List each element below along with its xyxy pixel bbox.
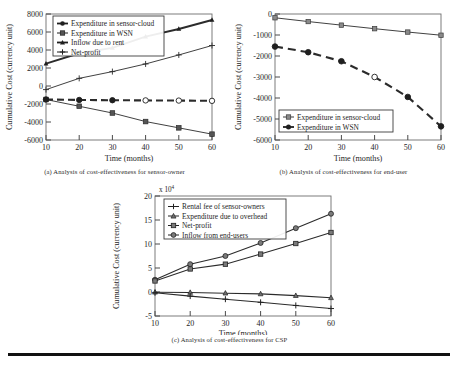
panel-a-x-axis: 10 20 30 40 50 60 (42, 135, 216, 152)
panel-a-y-axis: 8000 6000 4000 2000 0 -2000 -4000 -6000 (24, 10, 51, 145)
panel-a-xtick-20: 20 (75, 143, 83, 152)
panel-b-ytick-neg6000: -6000 (253, 136, 272, 145)
panel-c-y-axis: 20 15 10 5 0 -5 (144, 192, 160, 321)
panel-c-ytick-20: 20 (144, 192, 152, 201)
panel-a-legend-label-1: Expenditure in WSN (71, 29, 134, 38)
cost-effectiveness-figure: 8000 6000 4000 2000 0 -2000 -4000 -6000 … (0, 0, 458, 366)
panel-c-xtick-40: 40 (257, 319, 265, 328)
panel-b-legend: Expenditure in sensor-cloud Expenditure … (279, 110, 393, 132)
panel-a-caption: (a) Analysis of cost-effectiveness for s… (0, 168, 229, 175)
panel-c-legend-item-1: Expenditure due to overhead (168, 212, 267, 221)
panel-a-ytick-2000: 2000 (27, 64, 43, 73)
panel-c-legend-label-0: Rental fee of sensor-owners (182, 202, 265, 211)
panel-c-legend-label-1: Expenditure due to overhead (182, 212, 267, 221)
panel-a-legend-label-2: Inflow due to rent (71, 38, 125, 47)
panel-c-y-exponent: x 104 (159, 184, 175, 194)
panel-a-legend-item-0: Expenditure in sensor-cloud (57, 19, 154, 28)
panel-b-xtick-20: 20 (304, 143, 312, 152)
panel-b-ytick-neg1000: -1000 (253, 31, 272, 40)
panel-c-series-rental-fee-of-sensor-owners (152, 290, 334, 312)
panel-b: 0 -1000 -2000 -3000 -4000 -5000 -6000 10… (229, 0, 458, 183)
panel-a-ytick-neg2000: -2000 (24, 100, 43, 109)
panel-a-legend: Expenditure in sensor-cloud Expenditure … (53, 16, 164, 57)
panel-a-xlabel: Time (months) (105, 154, 154, 163)
panel-c-ytick-15: 15 (144, 216, 152, 225)
panel-b-x-axis: 10 20 30 40 50 60 (271, 135, 445, 152)
panel-c-legend-item-0: Rental fee of sensor-owners (168, 202, 265, 211)
panel-c-legend: Rental fee of sensor-owners Expenditure … (164, 199, 286, 240)
panel-a-xtick-60: 60 (208, 143, 216, 152)
panel-b-series-expenditure-in-sensor-cloud (273, 16, 443, 38)
panel-c-xtick-10: 10 (151, 319, 159, 328)
panel-c-xlabel: Time (months) (219, 329, 268, 335)
panel-b-plot: 0 -1000 -2000 -3000 -4000 -5000 -6000 10… (229, 0, 458, 166)
panel-c-ytick-10: 10 (144, 240, 152, 249)
panel-b-ylabel: Cumulative Cost (currency unit) (234, 24, 243, 130)
panel-b-legend-item-0: Expenditure in sensor-cloud (283, 113, 380, 122)
panel-c: x 104 20 15 10 5 0 -5 (107, 180, 352, 350)
panel-b-ytick-neg2000: -2000 (253, 52, 272, 61)
panel-a-plot: 8000 6000 4000 2000 0 -2000 -4000 -6000 … (0, 0, 229, 166)
panel-c-xtick-30: 30 (221, 319, 229, 328)
panel-b-y-axis: 0 -1000 -2000 -3000 -4000 -5000 -6000 (253, 10, 280, 145)
panel-b-ytick-0: 0 (268, 10, 272, 19)
panel-b-xtick-40: 40 (371, 143, 379, 152)
panel-a-xtick-50: 50 (175, 143, 183, 152)
panel-b-xtick-10: 10 (271, 143, 279, 152)
panel-a-legend-label-0: Expenditure in sensor-cloud (71, 19, 154, 28)
panel-c-ylabel: Cumulative Cost (currency unit) (112, 203, 121, 309)
panel-c-plot: x 104 20 15 10 5 0 -5 (107, 180, 352, 335)
panel-a-series-expenditure-in-wsn (44, 97, 215, 136)
panel-b-legend-label-0: Expenditure in sensor-cloud (297, 113, 380, 122)
panel-b-ytick-neg3000: -3000 (253, 73, 272, 82)
panel-a-series-expenditure-in-sensor-cloud (43, 97, 214, 104)
panel-b-xtick-50: 50 (404, 143, 412, 152)
panel-b-legend-label-1: Expenditure in WSN (297, 123, 360, 132)
panel-c-ytick-0: 0 (148, 288, 152, 297)
panel-c-legend-label-2: Net-profit (182, 221, 212, 230)
panel-c-xtick-20: 20 (186, 319, 194, 328)
bottom-divider-rule (8, 353, 450, 356)
panel-a-ytick-4000: 4000 (27, 46, 43, 55)
panel-c-ytick-5: 5 (148, 264, 152, 273)
panel-b-xlabel: Time (months) (334, 154, 383, 163)
panel-b-ytick-neg4000: -4000 (253, 94, 272, 103)
panel-b-ytick-neg5000: -5000 (253, 115, 272, 124)
panel-c-xtick-60: 60 (327, 319, 335, 328)
panel-a-xtick-10: 10 (42, 143, 50, 152)
panel-a-ytick-8000: 8000 (27, 10, 43, 19)
panel-a-ytick-neg6000: -6000 (24, 136, 43, 145)
panel-a-ytick-neg4000: -4000 (24, 118, 43, 127)
panel-a-legend-label-3: Net-profit (71, 48, 101, 57)
panel-c-caption: (c) Analysis of cost-effectiveness for C… (107, 336, 352, 343)
panel-a-xtick-40: 40 (142, 143, 150, 152)
panel-a-ylabel: Cumulative Cost (currency unit) (5, 24, 14, 130)
panel-b-xtick-60: 60 (437, 143, 445, 152)
panel-a: 8000 6000 4000 2000 0 -2000 -4000 -6000 … (0, 0, 229, 183)
panel-a-ytick-0: 0 (39, 82, 43, 91)
panel-c-xtick-50: 50 (292, 319, 300, 328)
panel-c-x-axis: 10 20 30 40 50 60 (151, 311, 335, 328)
panel-a-xtick-30: 30 (108, 143, 116, 152)
panel-a-ytick-6000: 6000 (27, 28, 43, 37)
panel-c-legend-label-3: Inflow from end-users (182, 231, 248, 240)
panel-b-xtick-30: 30 (337, 143, 345, 152)
panel-b-caption: (b) Analysis of cost-effectiveness for e… (229, 168, 458, 175)
